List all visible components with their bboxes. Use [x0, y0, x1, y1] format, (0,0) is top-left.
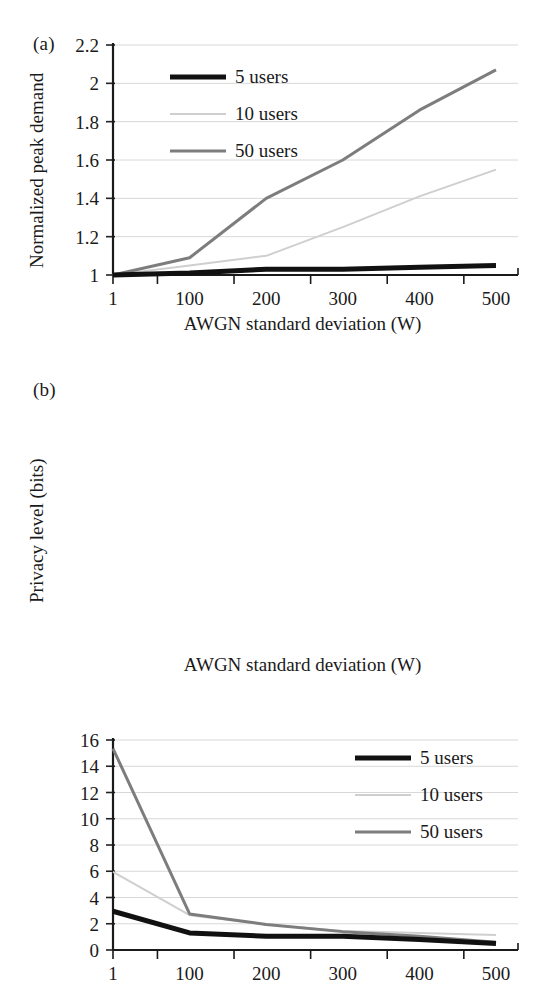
y-tick-label: 0: [47, 941, 99, 960]
legend-label-50-users: 50 users: [420, 821, 483, 843]
legend-line-10-users: [170, 108, 226, 120]
x-tick-label: 200: [236, 964, 296, 983]
panel-a: (a) Normalized peak demand AWGN standard…: [0, 0, 545, 351]
legend-line-5-users: [170, 71, 226, 83]
series-line-10-users: [113, 170, 496, 275]
x-tick-label: 400: [389, 964, 449, 983]
y-tick-label: 2: [47, 74, 99, 93]
y-tick-label: 4: [47, 889, 99, 908]
legend-line-50-users: [170, 145, 226, 157]
legend-line-50-users: [355, 826, 411, 838]
panel-a-legend: 5 users 10 users 50 users: [170, 58, 298, 169]
legend-label-50-users: 50 users: [235, 140, 298, 162]
legend-label-10-users: 10 users: [235, 103, 298, 125]
x-tick-label: 500: [466, 289, 526, 308]
x-tick-label: 1: [83, 964, 143, 983]
y-tick-label: 1: [47, 266, 99, 285]
x-tick-label: 300: [313, 289, 373, 308]
legend-item-50-users: 50 users: [170, 132, 298, 169]
y-tick-label: 6: [47, 862, 99, 881]
y-tick-label: 1.6: [47, 151, 99, 170]
panel-b-legend: 5 users 10 users 50 users: [355, 739, 483, 850]
legend-label-5-users: 5 users: [235, 66, 288, 88]
panel-a-y-axis-label: Normalized peak demand: [26, 73, 48, 268]
legend-label-10-users: 10 users: [420, 784, 483, 806]
x-tick-label: 200: [236, 289, 296, 308]
y-tick-label: 8: [47, 836, 99, 855]
legend-item-10-users: 10 users: [355, 776, 483, 813]
y-tick-label: 2.2: [47, 36, 99, 55]
y-tick-label: 16: [47, 731, 99, 750]
x-tick-label: 100: [160, 964, 220, 983]
legend-line-5-users: [355, 752, 411, 764]
legend-item-50-users: 50 users: [355, 813, 483, 850]
x-tick-label: 500: [466, 964, 526, 983]
legend-item-5-users: 5 users: [355, 739, 483, 776]
y-tick-label: 2: [47, 915, 99, 934]
panel-b-y-axis-label: Privacy level (bits): [26, 458, 48, 603]
x-tick-label: 100: [160, 289, 220, 308]
y-tick-label: 14: [47, 757, 99, 776]
legend-item-5-users: 5 users: [170, 58, 298, 95]
y-tick-label: 10: [47, 810, 99, 829]
y-tick-label: 12: [47, 784, 99, 803]
legend-line-10-users: [355, 789, 411, 801]
x-tick-label: 400: [389, 289, 449, 308]
legend-item-10-users: 10 users: [170, 95, 298, 132]
legend-label-5-users: 5 users: [420, 747, 473, 769]
panel-a-x-axis-label: AWGN standard deviation (W): [30, 313, 545, 335]
y-tick-label: 1.2: [47, 228, 99, 247]
y-tick-label: 1.4: [47, 189, 99, 208]
y-tick-label: 1.8: [47, 113, 99, 132]
panel-b-tag: (b): [33, 379, 56, 401]
x-tick-label: 300: [313, 964, 373, 983]
x-tick-label: 1: [83, 289, 143, 308]
panel-b-x-axis-label: AWGN standard deviation (W): [30, 654, 545, 676]
panel-b: (b) Privacy level (bits) AWGN standard d…: [0, 351, 545, 702]
